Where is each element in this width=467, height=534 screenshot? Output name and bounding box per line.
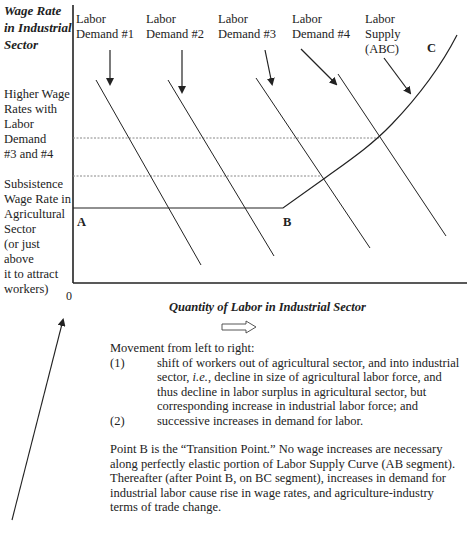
list-item: (1) shift of workers out of agricultural…	[110, 356, 462, 414]
labor-demand-3-label: Labor Demand #3	[218, 12, 276, 42]
label-line: Sector	[4, 222, 72, 237]
labor-supply-label: Labor Supply (ABC)	[365, 12, 400, 57]
label-line: Supply	[365, 27, 400, 42]
labor-demand-2-label: Labor Demand #2	[146, 12, 204, 42]
label-line: Demand	[4, 132, 72, 147]
label-line: Labor	[146, 12, 204, 27]
label-line: Labor	[218, 12, 276, 27]
label-line: (ABC)	[365, 42, 400, 57]
label-line: Labor	[4, 117, 72, 132]
explanation-block: Movement from left to right: (1) shift o…	[110, 341, 462, 515]
labor-demand-2-line	[168, 80, 274, 256]
labor-demand-4-label: Labor Demand #4	[292, 12, 350, 42]
explanation-intro: Movement from left to right:	[110, 341, 462, 356]
transition-point-paragraph: Point B is the “Transition Point.” No wa…	[110, 442, 462, 515]
label-line: Wage Rate in	[4, 192, 72, 207]
labor-demand-1-label: Labor Demand #1	[76, 12, 134, 42]
label-line: Demand #3	[218, 27, 276, 42]
explanation-list: (1) shift of workers out of agricultural…	[110, 356, 462, 429]
x-axis-label: Quantity of Labor in Industrial Sector	[169, 300, 366, 315]
label-line: Higher Wage	[4, 87, 72, 102]
label-line: Labor	[292, 12, 350, 27]
label-line: #3 and #4	[4, 147, 72, 162]
arrow-supply	[384, 58, 410, 93]
list-item: (2) successive increases in demand for l…	[110, 414, 462, 429]
point-c-label: C	[427, 41, 436, 56]
label-line: Subsistence	[4, 177, 72, 192]
item-italic-text: i.e.	[193, 370, 208, 384]
item-text: successive increases in demand for labor…	[157, 414, 363, 428]
y-axis-label: Wage Rate in Industrial Sector	[4, 2, 72, 53]
labor-demand-3-line	[256, 78, 370, 248]
origin-label: 0	[66, 289, 72, 304]
label-line: Labor	[76, 12, 134, 27]
higher-wage-label: Higher Wage Rates with Labor Demand #3 a…	[4, 87, 72, 162]
item-number: (1)	[110, 356, 125, 371]
arrow-demand-3	[265, 50, 272, 84]
arrow-demand-4	[301, 49, 336, 84]
label-line: workers)	[4, 282, 72, 297]
x-direction-arrow-icon	[222, 321, 256, 333]
label-line: it to attract	[4, 267, 72, 282]
label-line: Demand #4	[292, 27, 350, 42]
origin-pointer-arrow	[12, 320, 63, 520]
label-line: Demand #1	[76, 27, 134, 42]
label-line: Agricultural	[4, 207, 72, 222]
label-line: Labor	[365, 12, 400, 27]
label-line: (or just above	[4, 237, 72, 267]
point-a-label: A	[77, 215, 86, 230]
subsistence-wage-label: Subsistence Wage Rate in Agricultural Se…	[4, 177, 72, 297]
labor-demand-4-line	[338, 74, 446, 236]
label-line: Rates with	[4, 102, 72, 117]
item-number: (2)	[110, 414, 125, 429]
label-line: Demand #2	[146, 27, 204, 42]
point-b-label: B	[283, 215, 291, 230]
labor-supply-curve	[73, 35, 457, 208]
